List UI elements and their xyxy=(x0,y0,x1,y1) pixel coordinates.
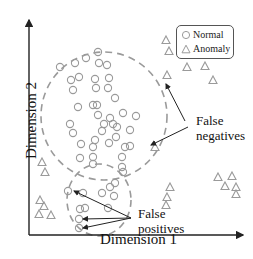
normal-point xyxy=(132,112,139,119)
normal-point xyxy=(105,74,112,81)
normal-point xyxy=(89,153,96,160)
legend-item-normal: Normal xyxy=(181,29,224,40)
normal-cluster-boundary xyxy=(41,52,167,180)
anomaly-point xyxy=(228,172,236,180)
normal-point xyxy=(105,139,112,146)
normal-point xyxy=(67,76,74,83)
normal-point xyxy=(94,111,101,118)
annotation-line: False xyxy=(138,206,184,221)
normal-point xyxy=(100,120,107,127)
normal-point xyxy=(95,59,102,66)
normal-point xyxy=(89,143,96,150)
normal-point xyxy=(69,129,76,136)
legend: Normal Anomaly xyxy=(176,25,234,59)
anomaly-point xyxy=(36,196,44,204)
anomaly-point xyxy=(165,47,173,55)
anomaly-point xyxy=(35,210,43,218)
normal-point xyxy=(126,142,133,149)
legend-item-anomaly: Anomaly xyxy=(181,43,230,54)
anomaly-point xyxy=(41,168,49,176)
anomaly-point xyxy=(166,183,174,191)
triangle-icon xyxy=(181,44,191,54)
normal-point xyxy=(111,94,118,101)
normal-point xyxy=(112,133,119,140)
normal-point xyxy=(76,154,83,161)
circle-icon xyxy=(181,30,191,40)
normal-point xyxy=(75,215,82,222)
normal-point xyxy=(111,179,118,186)
normal-point xyxy=(71,59,78,66)
fp-arrow-2 xyxy=(83,218,131,219)
normal-point xyxy=(98,189,105,196)
normal-point xyxy=(76,205,83,212)
anomaly-point xyxy=(183,63,191,71)
fn-arrow-lower xyxy=(151,127,188,145)
normal-point xyxy=(121,143,128,150)
anomaly-point xyxy=(201,62,209,70)
normal-point xyxy=(92,84,99,91)
anomaly-point xyxy=(163,71,171,79)
anomaly-point xyxy=(232,190,240,198)
annotation-line: False xyxy=(196,113,245,128)
annotation-line: negatives xyxy=(196,128,245,143)
normal-point xyxy=(103,61,110,68)
normal-point xyxy=(110,192,117,199)
anomaly-point xyxy=(163,193,171,201)
normal-point xyxy=(81,204,88,211)
anomaly-point xyxy=(47,211,55,219)
anomaly-point xyxy=(221,182,229,190)
anomaly-point xyxy=(214,173,222,181)
normal-point xyxy=(106,183,113,190)
normal-point xyxy=(98,127,105,134)
normal-point xyxy=(91,75,98,82)
normal-point xyxy=(75,73,82,80)
x-axis-label: Dimension 1 xyxy=(100,231,177,248)
y-axis-label: Dimension 2 xyxy=(23,76,40,166)
normal-point xyxy=(77,140,84,147)
normal-point xyxy=(126,126,133,133)
normal-point xyxy=(74,103,81,110)
normal-point xyxy=(104,84,111,91)
fn-arrow-upper xyxy=(166,84,185,121)
fp-arrow-1 xyxy=(74,191,131,218)
normal-point xyxy=(118,153,125,160)
scatter-diagram: Normal Anomaly False negatives False pos… xyxy=(0,0,253,259)
legend-label: Anomaly xyxy=(193,43,230,54)
legend-label: Normal xyxy=(193,29,224,40)
normal-point xyxy=(119,168,126,175)
normal-point xyxy=(91,136,98,143)
normal-point xyxy=(66,120,73,127)
normal-point xyxy=(119,109,126,116)
normal-point xyxy=(69,86,76,93)
false-negatives-label: False negatives xyxy=(196,113,245,143)
anomaly-point xyxy=(162,36,170,44)
anomaly-point xyxy=(209,76,217,84)
normal-point xyxy=(118,163,125,170)
